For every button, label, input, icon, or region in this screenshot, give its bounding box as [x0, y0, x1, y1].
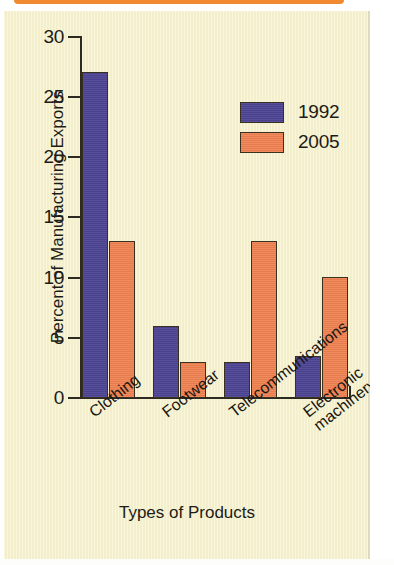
legend-swatch-2005	[240, 132, 284, 153]
scan-left-margin	[0, 0, 4, 565]
y-tick-0	[68, 397, 81, 399]
y-tick-30	[68, 36, 81, 38]
bar-clothing-1992[interactable]	[82, 72, 108, 398]
y-axis-title: Percent of Manufacturing Exports	[48, 67, 68, 367]
y-tick-15	[68, 216, 81, 218]
bar-group-footwear	[153, 36, 207, 398]
bar-group-telecommunications	[224, 36, 278, 398]
y-tick-20	[68, 156, 81, 158]
chart-panel: 30 25 20 15 10 5 0 Percent of Manufactur…	[4, 11, 370, 559]
legend-item-2005[interactable]: 2005	[240, 127, 339, 157]
legend-label-1992: 1992	[298, 101, 339, 123]
y-tick-label-0: 0	[54, 388, 64, 407]
y-tick-10	[68, 277, 81, 279]
scanned-chart-page: 30 25 20 15 10 5 0 Percent of Manufactur…	[0, 0, 394, 565]
legend-swatch-1992	[240, 102, 284, 123]
chart-legend: 1992 2005	[240, 97, 339, 157]
y-tick-5	[68, 337, 81, 339]
y-tick-label-30: 30	[43, 27, 64, 46]
scan-bottom-margin	[0, 559, 394, 565]
legend-label-2005: 2005	[298, 131, 339, 153]
scan-right-margin	[370, 0, 394, 565]
page-header-rule	[14, 0, 344, 4]
bar-chart: 30 25 20 15 10 5 0 Percent of Manufactur…	[4, 11, 370, 559]
bar-footwear-1992[interactable]	[153, 326, 179, 398]
legend-item-1992[interactable]: 1992	[240, 97, 339, 127]
y-tick-25	[68, 96, 81, 98]
bar-group-clothing	[82, 36, 136, 398]
x-axis-title: Types of Products	[4, 503, 370, 523]
